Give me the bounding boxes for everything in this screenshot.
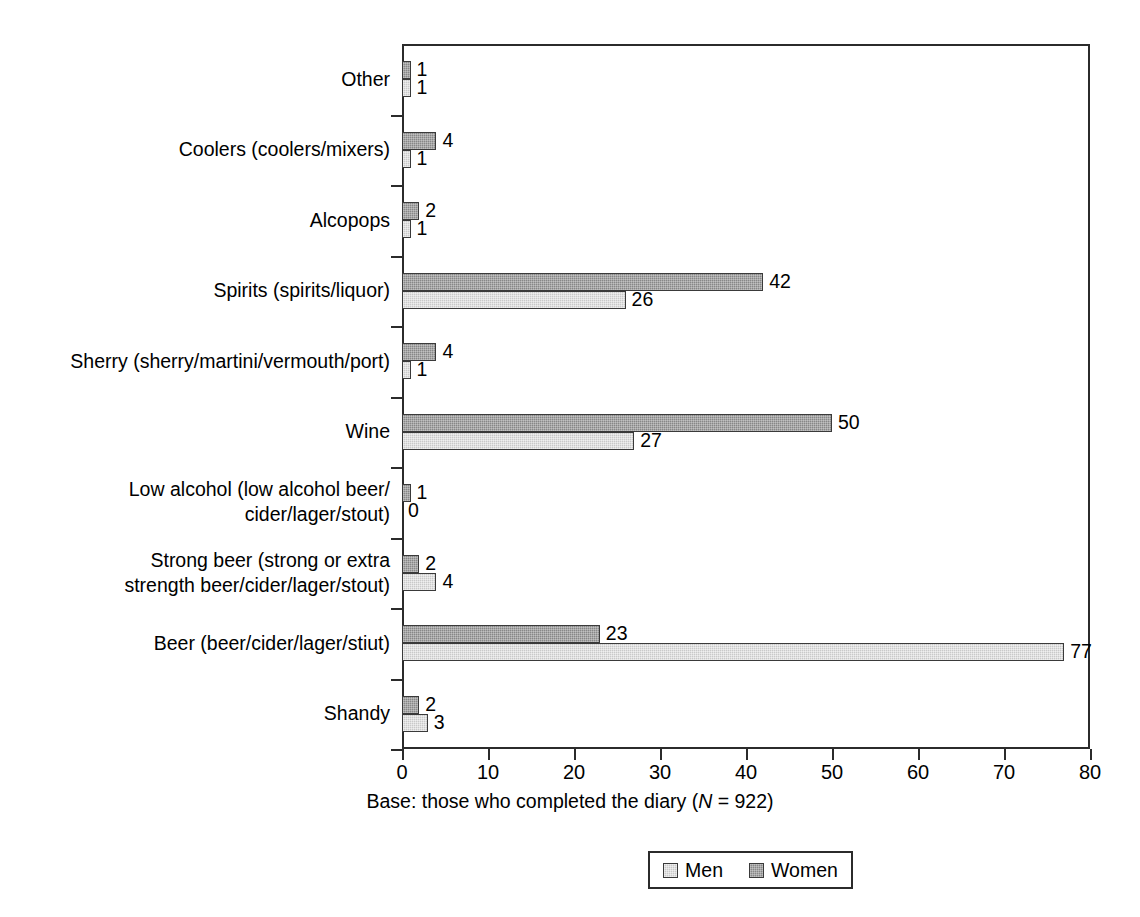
category-label: Strong beer (strong or extra strength be…: [0, 548, 390, 598]
horizontal-bar-chart: Shandy23Beer (beer/cider/lager/stiut)237…: [0, 0, 1140, 917]
y-axis-tick: [391, 538, 402, 540]
bar-men: [402, 573, 436, 591]
bar-value-label: 77: [1070, 642, 1092, 661]
x-axis-tick-label: 50: [821, 760, 843, 784]
bar-men: [402, 714, 428, 732]
legend-swatch-icon: [663, 863, 678, 878]
bar-value-label: 0: [408, 501, 419, 520]
legend-entry-men: Men: [663, 860, 723, 880]
bar-value-label: 1: [417, 360, 428, 379]
bar-men: [402, 79, 411, 97]
bar-women: [402, 273, 763, 291]
x-axis-tick-label: 80: [1079, 760, 1101, 784]
y-axis-tick: [391, 467, 402, 469]
bar-value-label: 42: [769, 272, 791, 291]
bar-value-label: 4: [442, 131, 453, 150]
bar-value-label: 2: [425, 554, 436, 573]
category-label: Coolers (coolers/mixers): [0, 137, 390, 162]
category-label: Alcopops: [0, 208, 390, 233]
bar-men: [402, 291, 626, 309]
x-axis-tick-label: 60: [907, 760, 929, 784]
y-axis-tick: [391, 397, 402, 399]
bar-value-label: 3: [434, 713, 445, 732]
bar-value-label: 23: [606, 624, 628, 643]
category-label: Sherry (sherry/martini/vermouth/port): [0, 349, 390, 374]
x-axis-tick: [1004, 749, 1006, 760]
x-axis-tick: [1090, 749, 1092, 760]
x-axis-tick-label: 40: [735, 760, 757, 784]
bar-women: [402, 555, 419, 573]
bar-group: [402, 185, 1090, 256]
category-label: Wine: [0, 419, 390, 444]
x-axis-tick: [660, 749, 662, 760]
legend-label: Women: [771, 860, 838, 880]
chart-legend: MenWomen: [648, 851, 853, 889]
category-label: Other: [0, 67, 390, 92]
bar-group: [402, 326, 1090, 397]
caption-suffix: = 922): [712, 790, 773, 812]
category-label: Shandy: [0, 701, 390, 726]
x-axis-tick-label: 10: [477, 760, 499, 784]
bar-men: [402, 361, 411, 379]
legend-swatch-icon: [749, 863, 764, 878]
legend-label: Men: [685, 860, 723, 880]
x-axis-tick-label: 0: [396, 760, 407, 784]
x-axis-tick-label: 30: [649, 760, 671, 784]
bar-group: [402, 538, 1090, 609]
y-axis-tick: [391, 608, 402, 610]
y-axis-tick: [391, 185, 402, 187]
bar-group: [402, 467, 1090, 538]
bar-value-label: 1: [417, 78, 428, 97]
bar-group: [402, 679, 1090, 750]
x-axis-tick: [918, 749, 920, 760]
category-label: Spirits (spirits/liquor): [0, 278, 390, 303]
legend-entry-women: Women: [749, 860, 838, 880]
x-axis-tick: [488, 749, 490, 760]
x-axis-tick-label: 70: [993, 760, 1015, 784]
bar-men: [402, 643, 1064, 661]
x-axis-tick-label: 20: [563, 760, 585, 784]
bar-value-label: 4: [442, 572, 453, 591]
bar-group: [402, 115, 1090, 186]
x-axis-tick: [402, 749, 404, 760]
caption-italic-n: N: [698, 790, 712, 812]
bar-men: [402, 220, 411, 238]
bar-value-label: 26: [632, 290, 654, 309]
category-label: Low alcohol (low alcohol beer/ cider/lag…: [0, 477, 390, 527]
x-axis-tick: [746, 749, 748, 760]
bar-value-label: 27: [640, 431, 662, 450]
bar-value-label: 50: [838, 413, 860, 432]
bar-women: [402, 625, 600, 643]
bar-women: [402, 61, 411, 79]
bar-men: [402, 432, 634, 450]
y-axis-tick: [391, 749, 402, 751]
bar-women: [402, 414, 832, 432]
bar-women: [402, 696, 419, 714]
y-axis-tick: [391, 326, 402, 328]
y-axis-tick: [391, 679, 402, 681]
category-label: Beer (beer/cider/lager/stiut): [0, 631, 390, 656]
bar-value-label: 4: [442, 342, 453, 361]
x-axis-caption: Base: those who completed the diary (N =…: [0, 789, 1140, 813]
caption-prefix: Base: those who completed the diary (: [366, 790, 698, 812]
bar-value-label: 1: [417, 149, 428, 168]
bar-value-label: 1: [417, 219, 428, 238]
y-axis-tick: [391, 256, 402, 258]
x-axis-tick: [832, 749, 834, 760]
bar-group: [402, 44, 1090, 115]
bar-men: [402, 150, 411, 168]
y-axis-tick: [391, 115, 402, 117]
x-axis-tick: [574, 749, 576, 760]
